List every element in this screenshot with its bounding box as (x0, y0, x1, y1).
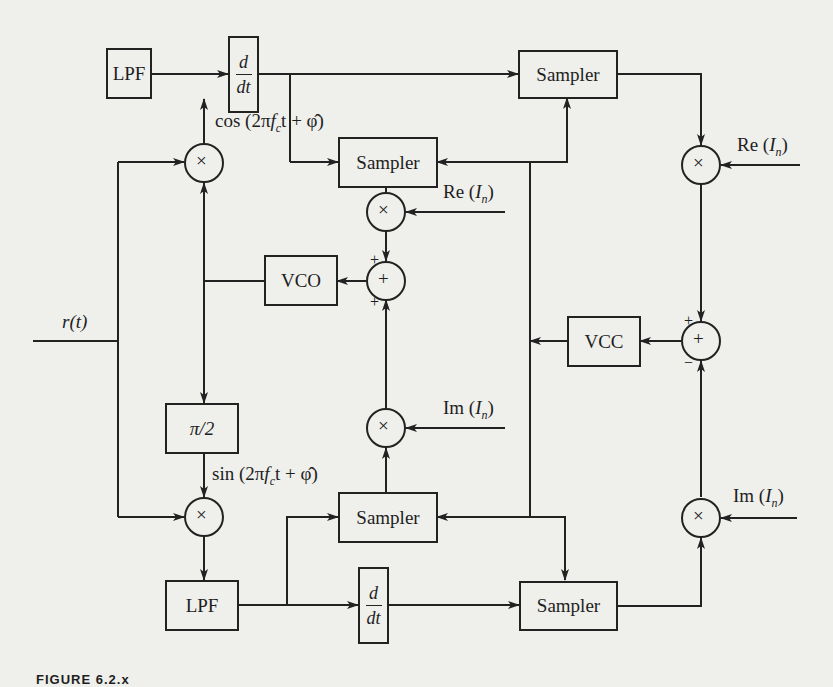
denominator: dt (366, 608, 380, 628)
block-label: π/2 (190, 418, 214, 440)
cos-reference-label: cos (2πfct + φ̂) (215, 110, 324, 136)
differentiator-bottom-block: ddt (358, 567, 389, 644)
label-part: sin (2π (212, 463, 264, 484)
derivative-fraction: ddt (366, 583, 382, 629)
fraction-bar (366, 605, 382, 607)
multiplier-icon: × (378, 415, 389, 437)
numerator: d (239, 52, 248, 72)
label-part: ) (488, 181, 494, 202)
label-part: Im ( (733, 485, 765, 506)
label-part: Re ( (737, 134, 769, 155)
label-part: Re ( (443, 181, 475, 202)
label-part: Im ( (443, 397, 475, 418)
vco-block: VCO (264, 255, 338, 306)
im-in-label-right: Im (In) (733, 485, 784, 511)
summer-icon: + (378, 268, 389, 290)
label-part: cos (2π (215, 110, 271, 131)
sign-plus: + (370, 293, 379, 311)
multiplier-icon: × (693, 505, 704, 527)
re-in-label-right: Re (In) (737, 134, 788, 160)
re-in-label-mid: Re (In) (443, 181, 494, 207)
input-signal-label: r(t) (62, 311, 87, 333)
fraction-bar (236, 74, 252, 76)
sin-reference-label: sin (2πfct + φ̂) (212, 463, 318, 489)
block-label: VCC (584, 331, 623, 353)
multiplier-icon: × (196, 504, 207, 526)
sign-plus: + (370, 251, 379, 269)
block-label: LPF (186, 595, 219, 617)
figure-caption: FIGURE 6.2.x (36, 672, 130, 687)
lpf-top-block: LPF (106, 48, 152, 99)
sampler-bottom-right-block: Sampler (519, 581, 618, 631)
denominator: dt (236, 77, 250, 97)
im-in-label-mid: Im (In) (443, 397, 494, 423)
block-label: Sampler (356, 507, 419, 529)
phase-shift-block: π/2 (165, 403, 239, 454)
derivative-fraction: ddt (236, 52, 252, 98)
multiplier-icon: × (693, 152, 704, 174)
numerator: d (369, 583, 378, 603)
sampler-mid-top-block: Sampler (338, 137, 438, 188)
sign-minus: − (684, 354, 693, 372)
label-part: t + φ̂) (275, 463, 318, 484)
block-label: VCO (281, 270, 321, 292)
multiplier-icon: × (378, 199, 389, 221)
multiplier-icon: × (196, 150, 207, 172)
vcc-block: VCC (567, 316, 641, 367)
block-label: Sampler (537, 595, 600, 617)
block-label: Sampler (536, 64, 599, 86)
lpf-bottom-block: LPF (165, 580, 239, 631)
label-part: ) (782, 134, 788, 155)
block-label: Sampler (356, 152, 419, 174)
block-label: LPF (113, 63, 146, 85)
sampler-top-right-block: Sampler (518, 50, 618, 99)
sampler-mid-bottom-block: Sampler (338, 492, 438, 543)
differentiator-top-block: ddt (228, 36, 259, 113)
label-part: ) (488, 397, 494, 418)
summer-icon: + (693, 328, 704, 350)
label-part: ) (778, 485, 784, 506)
sign-plus: + (684, 312, 693, 330)
label-part: t + φ̂) (281, 110, 324, 131)
